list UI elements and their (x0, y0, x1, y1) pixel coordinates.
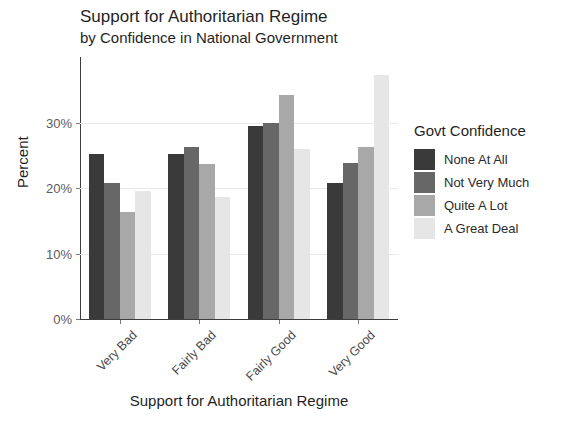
y-tick-label: 10% (46, 246, 72, 261)
x-tick-label: Fairly Good (243, 328, 299, 384)
bar (104, 183, 120, 319)
bar-group (168, 57, 230, 319)
bar (135, 191, 151, 319)
bar (279, 95, 295, 319)
legend-swatch (414, 149, 435, 170)
x-tick-mark (120, 320, 121, 324)
chart-title: Support for Authoritarian Regime (80, 6, 520, 28)
chart-subtitle: by Confidence in National Government (80, 28, 520, 48)
legend-item[interactable]: None At All (414, 148, 564, 171)
bar (263, 123, 279, 319)
x-tick-label: Fairly Bad (169, 328, 219, 378)
legend-item[interactable]: Quite A Lot (414, 194, 564, 217)
bar (327, 183, 343, 319)
y-tick-label: 0% (53, 312, 72, 327)
bar (215, 197, 231, 319)
legend-title: Govt Confidence (414, 122, 564, 139)
bar (184, 147, 200, 319)
legend: Govt Confidence None At AllNot Very Much… (414, 122, 564, 240)
bar (358, 147, 374, 319)
chart-figure: Support for Authoritarian Regime by Conf… (0, 0, 567, 424)
y-tick-label: 20% (46, 181, 72, 196)
legend-item[interactable]: A Great Deal (414, 217, 564, 240)
x-axis-title: Support for Authoritarian Regime (80, 392, 398, 409)
y-tick-label: 30% (46, 115, 72, 130)
legend-label: Quite A Lot (444, 198, 508, 213)
bar (294, 149, 310, 319)
legend-label: None At All (444, 152, 508, 167)
x-tick-mark (279, 320, 280, 324)
x-axis-line (80, 319, 398, 320)
x-tick-mark (199, 320, 200, 324)
x-tick-mark (358, 320, 359, 324)
bar-group (89, 57, 151, 319)
bar (120, 212, 136, 319)
bar-group (248, 57, 310, 319)
bar (89, 154, 105, 319)
bar (199, 164, 215, 319)
legend-label: A Great Deal (444, 221, 518, 236)
y-tick-mark (76, 254, 80, 255)
bar-group (327, 57, 389, 319)
plot-area: 0%10%20%30% (80, 57, 398, 319)
x-tick-label: Very Good (326, 328, 378, 380)
y-axis-title: Percent (14, 136, 31, 188)
legend-label: Not Very Much (444, 175, 529, 190)
legend-swatch (414, 218, 435, 239)
bar (343, 163, 359, 319)
legend-items: None At AllNot Very MuchQuite A LotA Gre… (414, 148, 564, 240)
bar (168, 154, 184, 319)
title-block: Support for Authoritarian Regime by Conf… (80, 6, 520, 48)
legend-swatch (414, 195, 435, 216)
x-tick-label: Very Bad (94, 328, 140, 374)
y-tick-mark (76, 123, 80, 124)
legend-swatch (414, 172, 435, 193)
bar (374, 75, 390, 319)
bar (248, 126, 264, 319)
y-tick-mark (76, 188, 80, 189)
legend-item[interactable]: Not Very Much (414, 171, 564, 194)
